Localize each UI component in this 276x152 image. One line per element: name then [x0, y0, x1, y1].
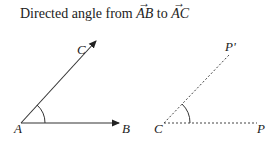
- ray-cp-prime: [164, 55, 229, 123]
- label-p: P: [256, 121, 265, 136]
- label-p-prime: P': [224, 39, 236, 54]
- right-angle-figure: C P P': [154, 39, 265, 136]
- angle-arc-right: [182, 104, 190, 123]
- label-a: A: [13, 121, 22, 136]
- label-c-vertex: C: [154, 121, 163, 136]
- label-b: B: [122, 121, 130, 136]
- angle-arc-left: [37, 105, 45, 123]
- angle-diagram: A B C C P P': [0, 0, 276, 152]
- left-angle-figure: A B C: [13, 41, 130, 136]
- label-c: C: [77, 42, 86, 57]
